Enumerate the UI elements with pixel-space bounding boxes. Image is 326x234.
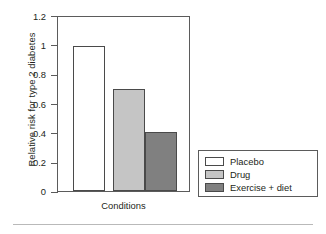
- footer-divider: [13, 224, 313, 225]
- figure: Relative risk for type 2 diabetes 1.2 1 …: [0, 0, 326, 234]
- legend-label-drug: Drug: [230, 170, 250, 180]
- y-tick-label-0-2: 0.2: [6, 158, 46, 167]
- legend-item-drug[interactable]: Drug: [205, 168, 250, 181]
- legend-swatch-placebo: [205, 157, 224, 166]
- bar-exercise-diet[interactable]: [145, 132, 177, 191]
- y-tick-label-0-6: 0.6: [6, 100, 46, 109]
- legend-swatch-exercise-diet: [205, 183, 224, 192]
- plot-area: [57, 16, 190, 192]
- legend-swatch-drug: [205, 170, 224, 179]
- y-tick-label-0-4: 0.4: [6, 129, 46, 138]
- legend-item-placebo[interactable]: Placebo: [205, 155, 264, 168]
- bar-drug[interactable]: [113, 89, 145, 191]
- legend-label-placebo: Placebo: [230, 157, 264, 167]
- y-tick-label-1: 1: [6, 41, 46, 50]
- y-tick-label-1-2: 1.2: [6, 12, 46, 21]
- y-tick-label-0: 0: [6, 187, 46, 196]
- x-axis-title: Conditions: [57, 200, 190, 211]
- bar-placebo[interactable]: [73, 46, 105, 191]
- legend-item-exercise-diet[interactable]: Exercise + diet: [205, 181, 292, 194]
- y-tick-mark-0: [51, 192, 58, 193]
- y-tick-label-0-8: 0.8: [6, 70, 46, 79]
- legend: Placebo Drug Exercise + diet: [198, 150, 318, 197]
- legend-label-exercise-diet: Exercise + diet: [230, 183, 292, 193]
